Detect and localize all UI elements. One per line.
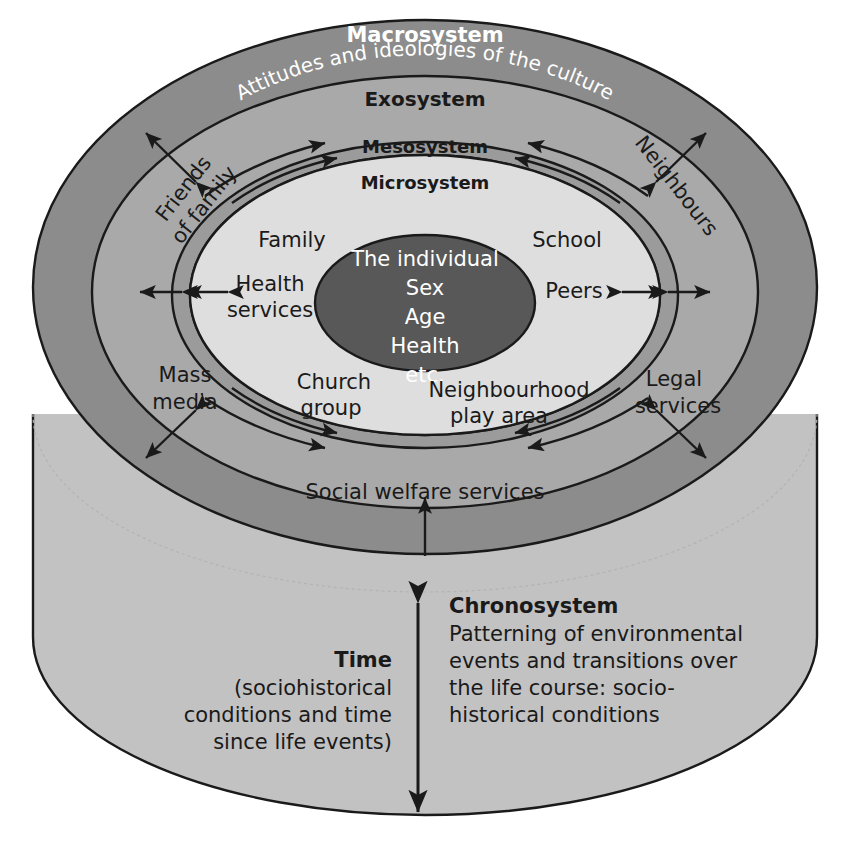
mass-media-line-2: media bbox=[152, 390, 217, 414]
chronosystem-body-1: events and transitions over bbox=[449, 649, 737, 673]
mesosystem-label: Mesosystem bbox=[362, 136, 488, 157]
neighbourhood-line-2: play area bbox=[450, 404, 548, 428]
diagram-canvas: Macrosystem Attitudes and ideologies of … bbox=[0, 0, 850, 847]
core-line-2: Age bbox=[405, 305, 446, 329]
core-line-0: The individual bbox=[350, 247, 499, 271]
health-services-line-2: services bbox=[227, 298, 313, 322]
chronosystem-body-2: the life course: socio- bbox=[449, 676, 675, 700]
time-heading: Time bbox=[334, 648, 392, 672]
microsystem-item-peers: Peers bbox=[545, 279, 602, 303]
microsystem-item-family: Family bbox=[258, 228, 326, 252]
chronosystem-heading: Chronosystem bbox=[449, 594, 618, 618]
mass-media-line-1: Mass bbox=[159, 363, 212, 387]
microsystem-label: Microsystem bbox=[361, 172, 490, 193]
ecological-systems-svg: Macrosystem Attitudes and ideologies of … bbox=[0, 0, 850, 847]
chronosystem-body-0: Patterning of environmental bbox=[449, 622, 743, 646]
health-services-line-1: Health bbox=[236, 272, 305, 296]
neighbourhood-line-1: Neighbourhood bbox=[428, 378, 589, 402]
exosystem-item-social-welfare-services: Social welfare services bbox=[305, 480, 544, 504]
time-body-0: (sociohistorical bbox=[234, 676, 392, 700]
church-group-line-2: group bbox=[301, 396, 362, 420]
legal-services-line-2: services bbox=[635, 394, 721, 418]
time-body-1: conditions and time bbox=[184, 703, 392, 727]
exosystem-label: Exosystem bbox=[364, 87, 485, 111]
time-body-2: since life events) bbox=[213, 730, 392, 754]
church-group-line-1: Church bbox=[297, 370, 371, 394]
microsystem-item-school: School bbox=[532, 228, 602, 252]
legal-services-line-1: Legal bbox=[646, 367, 702, 391]
core-line-1: Sex bbox=[406, 276, 444, 300]
core-line-3: Health bbox=[391, 334, 460, 358]
chronosystem-body-3: historical conditions bbox=[449, 703, 660, 727]
